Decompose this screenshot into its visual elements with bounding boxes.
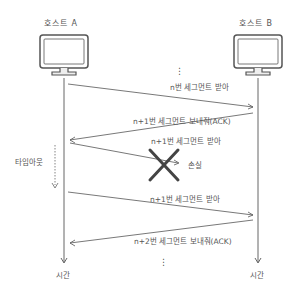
- message-label-5: n+2번 세그먼트 보내줘(ACK): [134, 238, 232, 246]
- host-b-monitor-icon: [234, 35, 282, 75]
- ellipsis-top: ⋮: [175, 67, 184, 76]
- timeout-arrow: [52, 145, 58, 188]
- time-label-b: 시간: [250, 272, 264, 280]
- ellipsis-bottom: ⋮: [159, 258, 168, 267]
- loss-label: 손실: [188, 162, 202, 170]
- host-a-label: 호스트 A: [44, 20, 78, 28]
- host-b-label: 호스트 B: [239, 20, 273, 28]
- message-label-2: n+1번 세그먼트 보내줘(ACK): [133, 118, 231, 126]
- message-label-1: n번 세그먼트 받아: [170, 84, 229, 92]
- message-label-3: n+1번 세그먼트 받아: [151, 138, 221, 146]
- host-a-monitor-icon: [40, 35, 88, 75]
- timeout-label: 타임아웃: [15, 159, 43, 167]
- message-label-4: n+1번 세그먼트 받아: [150, 196, 220, 204]
- time-label-a: 시간: [56, 272, 70, 280]
- diagram-canvas: [0, 0, 295, 299]
- loss-x-icon: [150, 150, 178, 180]
